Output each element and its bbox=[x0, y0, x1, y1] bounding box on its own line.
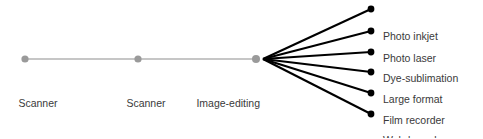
edge-hub-to-web-based-photo-printer bbox=[263, 59, 371, 114]
edge-hub-to-large-format bbox=[263, 59, 371, 72]
edge-hub-to-film-recorder bbox=[263, 59, 371, 93]
node-film-recorder[interactable] bbox=[368, 90, 375, 97]
label-line-2: hardware bbox=[2, 138, 74, 139]
label-scanner-software: Scanner software bbox=[110, 70, 182, 138]
node-dye-sublimation[interactable] bbox=[368, 49, 375, 56]
diagram-canvas: Scanner hardware Scanner software Image-… bbox=[0, 0, 483, 138]
label-image-editing-software: Image-editing software bbox=[178, 70, 260, 138]
edge-hub-to-photo-inkjet bbox=[263, 9, 371, 59]
node-photo-laser[interactable] bbox=[368, 28, 375, 35]
node-web-based-photo-printer[interactable] bbox=[368, 111, 375, 118]
node-photo-inkjet[interactable] bbox=[368, 6, 375, 13]
label-line-1: Image-editing bbox=[178, 97, 260, 111]
node-scanner-hardware[interactable] bbox=[21, 55, 28, 62]
label-line-1: Web-based bbox=[383, 134, 442, 138]
node-scanner-software[interactable] bbox=[134, 55, 141, 62]
label-line-2: software bbox=[178, 138, 260, 139]
label-web-based-photo-printer: Web-based photo printer bbox=[383, 107, 442, 138]
label-scanner-hardware: Scanner hardware bbox=[2, 70, 74, 138]
label-line-1: Scanner bbox=[110, 97, 182, 111]
node-large-format[interactable] bbox=[368, 69, 375, 76]
node-image-editing-software[interactable] bbox=[252, 55, 260, 63]
label-line-2: software bbox=[110, 138, 182, 139]
label-line-1: Scanner bbox=[2, 97, 74, 111]
